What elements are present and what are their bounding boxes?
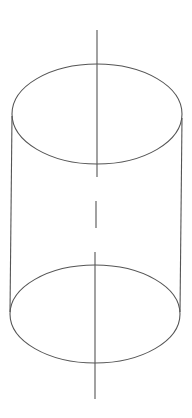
cylinder-left-side bbox=[10, 116, 12, 312]
cylinder-right-side bbox=[180, 118, 182, 312]
cylinder-drawing bbox=[0, 0, 192, 418]
cylinder-diagram bbox=[0, 0, 192, 418]
